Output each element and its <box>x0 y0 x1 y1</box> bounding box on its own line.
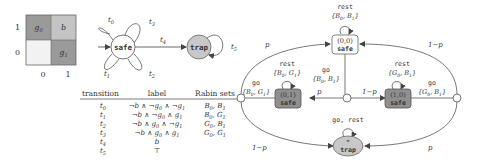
grid-ytick-1: 1 <box>15 23 20 32</box>
svg-text:go: go <box>252 79 260 87</box>
table-row-t1: t1 <box>100 111 106 120</box>
svg-text:¬b ∧ g0 ∧ ¬g1: ¬b ∧ g0 ∧ ¬g1 <box>132 120 183 129</box>
svg-text:1−p: 1−p <box>362 88 377 96</box>
svg-text:1−p: 1−p <box>252 144 267 152</box>
svg-text:B0, B1: B0, B1 <box>203 102 225 111</box>
svg-text:rest: rest <box>394 60 410 68</box>
svg-text:trap: trap <box>340 146 356 154</box>
grid-world: g0 b g1 1 0 0 1 <box>15 15 76 79</box>
svg-text:safe: safe <box>337 45 353 53</box>
svg-text:(0,1): (0,1) <box>280 91 296 99</box>
table-row-t4: t4 <box>100 138 106 147</box>
svg-text:rest: rest <box>337 3 353 11</box>
table-header-label: label <box>148 89 167 98</box>
svg-text:go: go <box>322 66 330 74</box>
svg-text:{B0, B1}: {B0, B1} <box>312 75 340 84</box>
svg-text:{B0, B1}: {B0, B1} <box>331 12 359 21</box>
table-header-rabin: Rabin sets <box>195 89 235 98</box>
label-t5: t5 <box>231 43 237 52</box>
svg-text:(0,0): (0,0) <box>337 37 353 45</box>
dra-state-safe-label: safe <box>114 43 133 52</box>
grid-xtick-1: 1 <box>65 70 70 79</box>
grid-label-b: b <box>61 23 66 32</box>
svg-text:{G0, B1}: {G0, B1} <box>388 69 416 78</box>
svg-text:safe: safe <box>280 99 296 107</box>
table-row-t5: t5 <box>100 147 106 156</box>
grid-xtick-0: 0 <box>40 70 45 79</box>
choice-node-center <box>343 94 351 102</box>
table-row-t3: t3 <box>100 129 106 138</box>
table-row-t0: t0 <box>100 102 107 111</box>
svg-text:p: p <box>317 88 322 96</box>
svg-text:go: go <box>428 79 436 87</box>
svg-text:¬b ∧ g0 ∧ g1: ¬b ∧ g0 ∧ g1 <box>135 129 180 138</box>
product-mdp: rest {B0, B1} (0,0) safe rest {B0, G1} (… <box>237 3 461 156</box>
choice-node-right <box>453 94 461 102</box>
svg-text:1−p: 1−p <box>428 41 443 49</box>
svg-text:rest: rest <box>279 60 295 68</box>
label-t1: t1 <box>104 70 110 79</box>
svg-text:¬b ∧ ¬g0 ∧ g1: ¬b ∧ ¬g0 ∧ g1 <box>132 111 183 120</box>
dra-state-trap-label: trap <box>190 43 209 52</box>
label-t4: t4 <box>160 36 166 45</box>
edge-right-to-trap <box>365 101 457 146</box>
svg-text:*: * <box>347 138 350 145</box>
svg-text:{G0, B1}: {G0, B1} <box>418 88 446 97</box>
svg-text:¬b ∧ ¬g0 ∧ ¬g1: ¬b ∧ ¬g0 ∧ ¬g1 <box>129 102 186 111</box>
svg-text:p: p <box>265 41 270 49</box>
grid-ytick-0: 0 <box>15 48 20 57</box>
svg-text:{B0, G1}: {B0, G1} <box>242 88 270 97</box>
label-t0: t0 <box>108 16 115 25</box>
diagram-canvas: g0 b g1 1 0 0 1 safe t0 t3 t1 t2 t4 trap… <box>0 0 479 166</box>
edge-t0 <box>99 28 113 40</box>
rabin-automaton: safe t0 t3 t1 t2 t4 trap t5 <box>98 16 237 79</box>
svg-text:(1,0): (1,0) <box>390 91 406 99</box>
svg-text:b: b <box>155 138 160 146</box>
self-loop-s01 <box>282 82 292 90</box>
svg-text:safe: safe <box>390 99 406 107</box>
svg-text:go, rest: go, rest <box>332 116 363 124</box>
svg-text:G0, B1: G0, B1 <box>204 120 226 129</box>
grid-cell-empty <box>26 40 51 65</box>
table-header-transition: transition <box>82 89 119 98</box>
label-t3: t3 <box>149 18 155 27</box>
svg-text:G0, G1: G0, G1 <box>204 129 226 138</box>
self-loop-s10 <box>392 82 402 90</box>
label-t2: t2 <box>149 70 155 79</box>
svg-text:B0, G1: B0, G1 <box>203 111 226 120</box>
table-row-t2: t2 <box>100 120 106 129</box>
svg-text:p: p <box>428 144 433 152</box>
svg-text:⊤: ⊤ <box>154 147 161 155</box>
svg-text:{B0, G1}: {B0, G1} <box>273 69 301 78</box>
self-loop-s00 <box>340 27 350 35</box>
transition-table: transition label Rabin sets t0 ¬b ∧ ¬g0 … <box>80 89 238 156</box>
